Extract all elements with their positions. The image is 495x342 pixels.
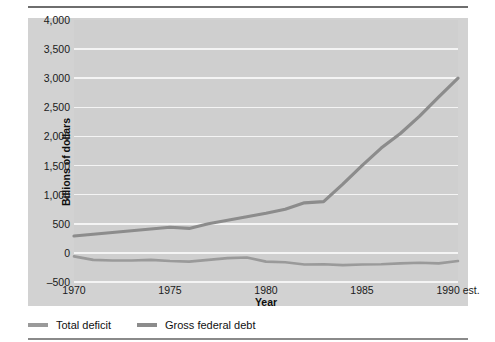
y-tick-label: 2,000 — [28, 131, 70, 141]
legend-label: Total deficit — [56, 319, 111, 331]
y-tick-label: 2,500 — [28, 102, 70, 112]
series-line — [74, 78, 458, 236]
x-axis-title: Year — [74, 296, 458, 308]
chart-panel: Billions of dollars 4,0003,5003,0002,500… — [28, 18, 468, 306]
y-tick-label: 1,000 — [28, 190, 70, 200]
y-tick-label: 4,000 — [28, 15, 70, 25]
top-divider-rule — [28, 6, 468, 8]
y-tick-label: 0 — [28, 248, 70, 258]
x-tick-label: 1980 — [254, 284, 277, 296]
legend-swatch-icon — [28, 323, 48, 327]
legend-swatch-icon — [137, 323, 157, 327]
legend-label: Gross federal debt — [165, 319, 256, 331]
chart-legend: Total deficitGross federal debt — [28, 316, 282, 334]
y-tick-label: 500 — [28, 219, 70, 229]
chart-figure: Billions of dollars 4,0003,5003,0002,500… — [0, 0, 495, 342]
y-tick-label: 3,500 — [28, 44, 70, 54]
y-tick-label: 1,500 — [28, 161, 70, 171]
legend-item[interactable]: Total deficit — [28, 319, 111, 331]
bottom-divider-rule — [28, 338, 468, 340]
x-tick-label: 1990 est. — [436, 284, 479, 296]
series-layer — [74, 20, 458, 282]
plot-area — [74, 20, 458, 282]
legend-item[interactable]: Gross federal debt — [137, 319, 256, 331]
y-tick-label: 3,000 — [28, 73, 70, 83]
x-tick-label: 1985 — [350, 284, 373, 296]
x-tick-label: 1970 — [62, 284, 85, 296]
series-line — [74, 256, 458, 265]
x-tick-label: 1975 — [158, 284, 181, 296]
